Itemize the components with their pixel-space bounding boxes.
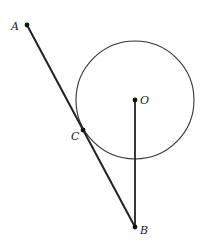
point-b xyxy=(133,225,138,230)
label-o: O xyxy=(140,94,149,107)
segment-ab xyxy=(27,25,135,227)
point-o xyxy=(133,98,138,103)
point-c xyxy=(81,128,86,133)
label-a: A xyxy=(10,20,19,33)
geometry-diagram: A O C B xyxy=(0,0,208,247)
label-c: C xyxy=(71,130,80,143)
point-a xyxy=(25,23,30,28)
label-b: B xyxy=(139,224,148,237)
